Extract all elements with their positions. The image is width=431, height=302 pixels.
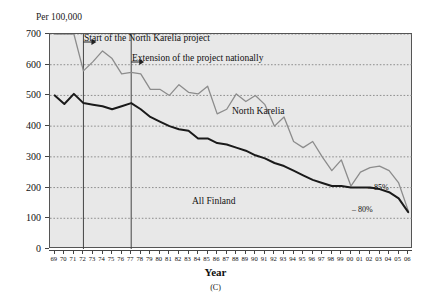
x-tick-mark-87 (226, 250, 227, 254)
x-tick-mark-86 (216, 250, 217, 254)
x-tick-mark-75 (111, 250, 112, 254)
x-tick-mark-98 (331, 250, 332, 254)
x-tick-label-86: 86 (213, 255, 220, 262)
x-tick-label-00: 00 (347, 255, 354, 262)
annotation-pct-north-karelia: – 85% (368, 183, 389, 192)
x-tick-label-80: 80 (156, 255, 163, 262)
x-tick-label-93: 93 (280, 255, 287, 262)
x-tick-label-06: 06 (404, 255, 411, 262)
x-tick-mark-69 (54, 250, 55, 254)
annotation-start-project: Start of the North Karelia project (84, 33, 210, 43)
x-tick-label-97: 97 (318, 255, 325, 262)
x-tick-mark-79 (149, 250, 150, 254)
x-tick-label-85: 85 (203, 255, 210, 262)
x-tick-mark-96 (312, 250, 313, 254)
x-tick-label-92: 92 (270, 255, 277, 262)
x-tick-mark-89 (245, 250, 246, 254)
x-tick-label-70: 70 (60, 255, 67, 262)
x-tick-label-01: 01 (356, 255, 363, 262)
x-tick-mark-73 (92, 250, 93, 254)
x-tick-mark-93 (283, 250, 284, 254)
x-tick-label-98: 98 (328, 255, 335, 262)
x-tick-mark-72 (82, 250, 83, 254)
x-tick-label-88: 88 (232, 255, 239, 262)
y-tick-mark-100 (45, 217, 49, 218)
plot-svg (50, 34, 413, 249)
y-tick-label-500: 500 (26, 89, 41, 100)
x-tick-label-91: 91 (261, 255, 268, 262)
y-tick-mark-700 (45, 33, 49, 34)
x-tick-label-79: 79 (146, 255, 153, 262)
x-tick-mark-76 (121, 250, 122, 254)
x-tick-mark-78 (140, 250, 141, 254)
x-tick-label-90: 90 (251, 255, 258, 262)
x-tick-label-04: 04 (385, 255, 392, 262)
x-tick-label-96: 96 (308, 255, 315, 262)
x-tick-label-74: 74 (98, 255, 105, 262)
y-tick-label-700: 700 (26, 28, 41, 39)
x-tick-label-02: 02 (366, 255, 373, 262)
x-tick-mark-82 (178, 250, 179, 254)
x-tick-mark-84 (197, 250, 198, 254)
x-tick-mark-80 (159, 250, 160, 254)
annotation-extension-project: Extension of the project nationally (132, 53, 263, 63)
x-tick-mark-71 (73, 250, 74, 254)
y-tick-mark-200 (45, 187, 49, 188)
x-tick-mark-90 (254, 250, 255, 254)
x-tick-mark-83 (188, 250, 189, 254)
x-tick-mark-05 (398, 250, 399, 254)
x-tick-label-78: 78 (136, 255, 143, 262)
chart-figure: Per 100,000 0100200300400500600700 69707… (0, 0, 431, 302)
x-tick-mark-00 (350, 250, 351, 254)
y-axis-tick-labels: 0100200300400500600700 (0, 0, 46, 302)
y-tick-label-200: 200 (26, 181, 41, 192)
x-tick-label-89: 89 (242, 255, 249, 262)
x-tick-mark-92 (273, 250, 274, 254)
x-tick-mark-94 (293, 250, 294, 254)
series-label-north-karelia: North Karelia (232, 106, 285, 116)
x-tick-label-99: 99 (337, 255, 344, 262)
y-tick-mark-500 (45, 94, 49, 95)
y-tick-label-400: 400 (26, 120, 41, 131)
y-tick-label-100: 100 (26, 212, 41, 223)
x-tick-label-69: 69 (50, 255, 57, 262)
x-tick-mark-97 (321, 250, 322, 254)
x-tick-label-71: 71 (70, 255, 77, 262)
x-tick-label-87: 87 (222, 255, 229, 262)
annotation-pct-all-finland: – 80% (352, 205, 373, 214)
y-tick-label-600: 600 (26, 58, 41, 69)
x-tick-mark-77 (130, 250, 131, 254)
series-label-all-finland: All Finland (192, 196, 236, 206)
y-tick-mark-300 (45, 156, 49, 157)
x-tick-label-82: 82 (175, 255, 182, 262)
y-tick-mark-600 (45, 64, 49, 65)
x-tick-mark-91 (264, 250, 265, 254)
x-tick-mark-85 (207, 250, 208, 254)
x-tick-mark-03 (379, 250, 380, 254)
x-tick-label-05: 05 (394, 255, 401, 262)
x-tick-mark-04 (388, 250, 389, 254)
x-tick-mark-95 (302, 250, 303, 254)
y-tick-label-0: 0 (36, 243, 41, 254)
y-tick-mark-400 (45, 125, 49, 126)
y-tick-label-300: 300 (26, 150, 41, 161)
x-tick-label-76: 76 (117, 255, 124, 262)
x-tick-label-72: 72 (79, 255, 86, 262)
x-tick-mark-88 (235, 250, 236, 254)
x-tick-label-75: 75 (108, 255, 115, 262)
x-tick-label-03: 03 (375, 255, 382, 262)
x-tick-label-84: 84 (194, 255, 201, 262)
x-axis-title: Year (0, 266, 431, 278)
x-tick-label-94: 94 (289, 255, 296, 262)
x-tick-label-83: 83 (184, 255, 191, 262)
x-tick-label-77: 77 (127, 255, 134, 262)
x-tick-label-81: 81 (165, 255, 172, 262)
x-axis-line (49, 250, 412, 251)
y-tick-mark-0 (45, 248, 49, 249)
x-tick-mark-06 (407, 250, 408, 254)
x-tick-mark-01 (359, 250, 360, 254)
plot-area (49, 33, 412, 248)
x-tick-mark-74 (102, 250, 103, 254)
x-tick-mark-81 (168, 250, 169, 254)
panel-caption: (C) (0, 283, 431, 292)
